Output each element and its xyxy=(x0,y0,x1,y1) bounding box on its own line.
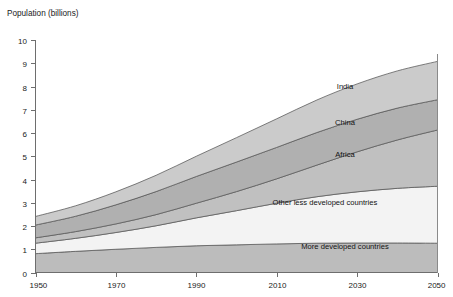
y-tick-label: 7 xyxy=(23,107,28,116)
band-label-other-less-developed-countries: Other less developed countries xyxy=(273,198,378,207)
band-label-more-developed-countries: More developed countries xyxy=(301,242,389,251)
population-stacked-area-chart: Population (billions) 012345678910 19501… xyxy=(0,0,453,297)
y-tick-label: 0 xyxy=(23,270,28,279)
y-tick-label: 4 xyxy=(23,177,28,186)
x-tick-label: 2010 xyxy=(269,281,287,290)
band-label-china: China xyxy=(335,118,356,127)
x-tick-label: 1970 xyxy=(108,281,126,290)
y-tick-label: 2 xyxy=(23,223,28,232)
band-label-africa: Africa xyxy=(335,150,355,159)
y-tick-label: 6 xyxy=(23,130,28,139)
chart-svg: Population (billions) 012345678910 19501… xyxy=(0,0,453,297)
y-tick-label: 10 xyxy=(18,37,27,46)
y-tick-label: 1 xyxy=(23,246,28,255)
chart-title: Population (billions) xyxy=(7,9,79,18)
y-tick-label: 3 xyxy=(23,200,28,209)
x-tick-label: 2030 xyxy=(349,281,367,290)
x-tick-label: 1990 xyxy=(188,281,206,290)
x-tick-label: 2050 xyxy=(428,281,446,290)
band-label-india: India xyxy=(337,82,354,91)
y-tick-label: 5 xyxy=(23,153,28,162)
x-tick-label: 1950 xyxy=(30,281,48,290)
y-tick-label: 9 xyxy=(23,60,28,69)
y-tick-label: 8 xyxy=(23,84,28,93)
